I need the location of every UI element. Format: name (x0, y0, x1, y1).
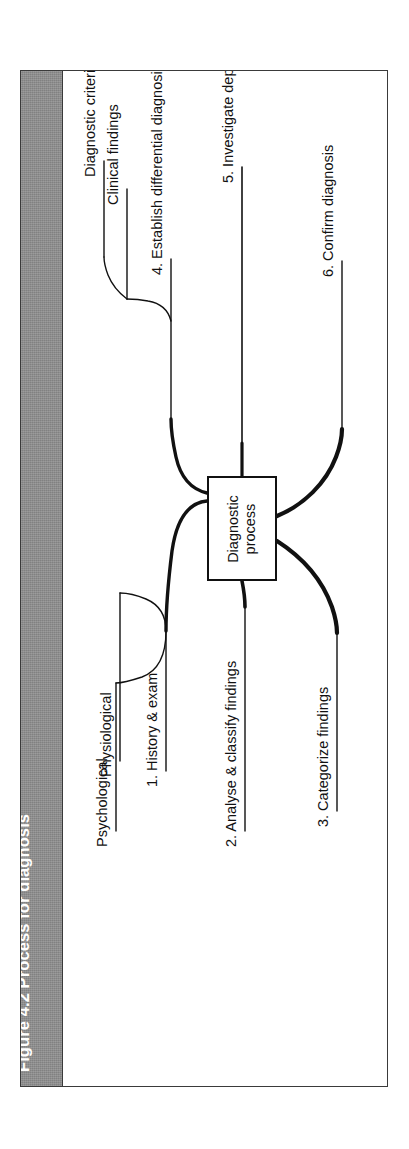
connector-branch-4 (171, 419, 207, 493)
figure-title: Figure 4.2 Process for diagnosis (21, 814, 33, 1072)
label-branch-4: 4. Establish differential diagnosis (149, 71, 165, 275)
connector-branch-1 (166, 501, 207, 631)
diagram-canvas: Diagnostic process Diagnostic criteria C… (64, 71, 389, 1086)
connector-sub-physiological (120, 593, 166, 631)
figure-title-band: Figure 4.2 Process for diagnosis (21, 71, 63, 1086)
connector-sub-diagnostic-criteria (104, 257, 127, 299)
label-diagnostic-criteria: Diagnostic criteria (82, 71, 98, 177)
central-node-line-1: Diagnostic (225, 495, 241, 563)
connector-sub-clinical-findings (127, 299, 171, 321)
label-branch-3: 3. Categorize findings (315, 687, 331, 827)
connector-branch-6 (277, 429, 342, 516)
connector-branch-2 (242, 581, 245, 607)
connector-branch-3 (277, 541, 337, 633)
central-node-diagnostic-process: Diagnostic process (207, 476, 277, 581)
label-clinical-findings: Clinical findings (105, 104, 121, 205)
central-node-line-2: process (242, 503, 258, 554)
label-branch-2: 2. Analyse & classify findings (223, 661, 239, 847)
label-branch-5: 5. Investigate depending on differential… (220, 71, 236, 183)
label-branch-6: 6. Confirm diagnosis (320, 145, 336, 277)
figure-frame: Figure 4.2 Process for diagnosis (20, 70, 388, 1087)
label-psychological: Psychological (94, 758, 110, 847)
central-node-label: Diagnostic process (225, 495, 259, 563)
label-branch-1: 1. History & exam (144, 673, 160, 787)
